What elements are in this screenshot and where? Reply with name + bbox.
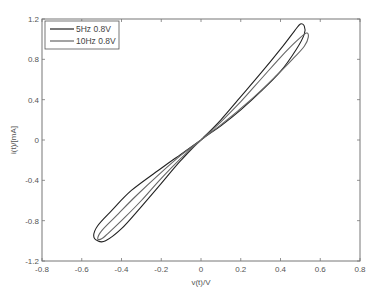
y-tick-label: 0.8: [28, 55, 40, 64]
y-tick-label: 0.4: [28, 96, 40, 105]
y-tick-label: -1.2: [25, 257, 39, 266]
hysteresis-chart: -0.8-0.6-0.4-0.200.20.40.60.8 1.20.80.40…: [0, 0, 379, 298]
x-tick-label: 0.2: [235, 265, 247, 274]
x-tick-label: 0: [199, 265, 204, 274]
y-tick-label: 1.2: [28, 15, 40, 24]
x-tick-labels: -0.8-0.6-0.4-0.200.20.40.60.8: [35, 265, 366, 274]
legend: 5Hz 0.8V 10Hz 0.8V: [45, 21, 119, 49]
legend-label-5hz: 5Hz 0.8V: [76, 24, 111, 34]
x-tick-label: -0.4: [115, 265, 129, 274]
y-axis-label: i(t)/[mA]: [9, 126, 18, 154]
x-tick-label: 0.8: [354, 265, 366, 274]
y-tick-label: -0.8: [25, 217, 39, 226]
y-tick-label: -0.4: [25, 176, 39, 185]
y-tick-labels: 1.20.80.40-0.4-0.8-1.2: [25, 15, 39, 266]
y-tick-label: 0: [35, 136, 40, 145]
x-axis-label: v(t)/V: [191, 278, 211, 287]
x-tick-label: -0.8: [35, 265, 49, 274]
x-tick-label: 0.6: [315, 265, 327, 274]
x-tick-label: 0.4: [275, 265, 287, 274]
legend-label-10hz: 10Hz 0.8V: [76, 36, 116, 46]
x-tick-label: -0.2: [154, 265, 168, 274]
x-tick-label: -0.6: [75, 265, 89, 274]
